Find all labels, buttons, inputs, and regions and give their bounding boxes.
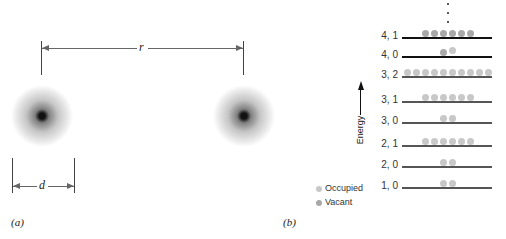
energy-level-line bbox=[402, 37, 492, 39]
vacant-state-dot bbox=[467, 30, 474, 37]
level-label: 3, 2 bbox=[368, 69, 398, 80]
occupied-state-dot bbox=[467, 69, 474, 76]
occupied-state-dot bbox=[458, 94, 465, 101]
r-right-extension bbox=[243, 41, 244, 75]
legend-item-occupied: Occupied bbox=[316, 183, 363, 193]
occupied-state-dot bbox=[431, 94, 438, 101]
panel-a-label: (a) bbox=[11, 216, 24, 228]
d-right-extension bbox=[74, 158, 75, 193]
occupied-dot-icon bbox=[316, 186, 322, 192]
energy-axis-label: Energy bbox=[355, 112, 365, 148]
ellipsis-dot bbox=[447, 21, 449, 23]
vacant-state-dot bbox=[440, 30, 447, 37]
energy-arrow-icon bbox=[358, 81, 364, 90]
level-label: 2, 1 bbox=[368, 138, 398, 149]
occupied-state-dot bbox=[449, 115, 456, 122]
level-label: 2, 0 bbox=[368, 159, 398, 170]
occupied-state-dot bbox=[467, 94, 474, 101]
occupied-state-dot bbox=[449, 138, 456, 145]
level-label: 3, 0 bbox=[368, 115, 398, 126]
separation-label: r bbox=[139, 40, 144, 55]
occupied-state-dot bbox=[458, 138, 465, 145]
diameter-label: d bbox=[39, 178, 45, 193]
occupied-state-dot bbox=[440, 138, 447, 145]
arrow-right-icon bbox=[67, 183, 74, 189]
occupied-state-dot bbox=[440, 115, 447, 122]
vacant-state-dot bbox=[458, 30, 465, 37]
occupied-state-dot bbox=[467, 138, 474, 145]
legend-label: Vacant bbox=[325, 197, 352, 207]
occupied-state-dot bbox=[449, 94, 456, 101]
r-dimension-line-right bbox=[148, 48, 243, 49]
occupied-state-dot bbox=[458, 69, 465, 76]
level-label: 3, 1 bbox=[368, 94, 398, 105]
occupied-state-dot bbox=[404, 69, 411, 76]
occupied-state-dot bbox=[449, 180, 456, 187]
energy-level-line bbox=[402, 145, 492, 147]
level-label: 1, 0 bbox=[368, 180, 398, 191]
legend-label: Occupied bbox=[325, 183, 363, 193]
occupied-state-dot bbox=[431, 69, 438, 76]
atom-left bbox=[11, 85, 73, 147]
r-dimension-line-left bbox=[42, 48, 137, 49]
occupied-state-dot bbox=[485, 69, 492, 76]
occupied-state-dot bbox=[440, 180, 447, 187]
occupied-state-dot bbox=[431, 138, 438, 145]
energy-level-line bbox=[402, 56, 492, 58]
occupied-state-dot bbox=[449, 159, 456, 166]
vacant-state-dot bbox=[422, 30, 429, 37]
occupied-state-dot bbox=[422, 69, 429, 76]
energy-level-line bbox=[402, 101, 492, 103]
vacant-state-dot bbox=[440, 49, 447, 56]
energy-level-line bbox=[402, 76, 492, 78]
occupied-state-dot bbox=[449, 69, 456, 76]
occupied-state-dot bbox=[440, 159, 447, 166]
vacant-dot-icon bbox=[316, 200, 322, 206]
level-label: 4, 1 bbox=[368, 30, 398, 41]
energy-level-line bbox=[402, 166, 492, 168]
occupied-state-dot bbox=[440, 69, 447, 76]
panel-b-label: (b) bbox=[283, 216, 296, 228]
vacant-state-dot bbox=[449, 30, 456, 37]
occupied-state-dot bbox=[476, 69, 483, 76]
ellipsis-dot bbox=[447, 3, 449, 5]
level-label: 4, 0 bbox=[368, 49, 398, 60]
arrow-left-icon bbox=[42, 45, 49, 51]
arrow-right-icon bbox=[236, 45, 243, 51]
occupied-state-dot bbox=[449, 47, 456, 54]
energy-level-line bbox=[402, 122, 492, 124]
occupied-state-dot bbox=[440, 94, 447, 101]
occupied-state-dot bbox=[422, 138, 429, 145]
arrow-left-icon bbox=[13, 183, 20, 189]
atom-right bbox=[213, 85, 275, 147]
occupied-state-dot bbox=[422, 94, 429, 101]
vacant-state-dot bbox=[431, 30, 438, 37]
ellipsis-dot bbox=[447, 12, 449, 14]
legend-item-vacant: Vacant bbox=[316, 197, 352, 207]
energy-level-line bbox=[402, 187, 492, 189]
occupied-state-dot bbox=[413, 69, 420, 76]
